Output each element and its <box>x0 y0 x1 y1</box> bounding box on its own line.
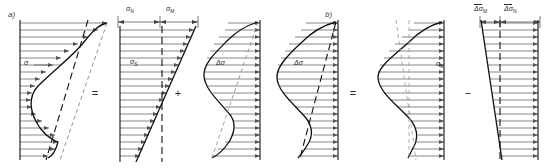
panel-a-equals-operator: = <box>88 87 102 99</box>
arrow-heads <box>533 21 538 158</box>
dim-dsM-sub: M <box>483 8 487 14</box>
residual-stress-curve <box>204 22 258 158</box>
panel-b-linear-correction-diagram <box>478 20 542 160</box>
panel-b-delta-sigma-label: Δσ <box>294 59 303 66</box>
panel-a-plus-operator: + <box>171 87 185 99</box>
linear-stress-line <box>136 26 196 162</box>
figure-canvas: a) <box>0 0 544 168</box>
sigma-S-sub: S <box>134 61 137 67</box>
panel-b-minus-operator: − <box>461 87 475 99</box>
panel-b-equals-operator: = <box>346 87 360 99</box>
residual-stress-curve <box>277 22 336 158</box>
reference-dashed <box>212 22 258 158</box>
arrow-heads <box>333 21 338 158</box>
warping-stress-curve <box>378 22 442 158</box>
panel-label-a: a) <box>8 10 15 19</box>
arrow-field <box>482 23 538 156</box>
panel-a-dim-sigma-N: σN <box>126 5 134 14</box>
panel-a-sigma-label: σ <box>24 59 28 66</box>
linear-reference-dashed <box>300 22 336 158</box>
arrow-heads <box>439 21 444 158</box>
panel-b-sigma-w-label: σw <box>436 60 444 69</box>
panel-label-b: b) <box>325 10 332 19</box>
sigma-w-sub: w <box>440 63 444 69</box>
panel-a-delta-sigma-label: Δσ <box>216 59 225 66</box>
linear-correction-line <box>481 20 502 160</box>
dim-sigma-N-sub: N <box>130 8 134 14</box>
panel-a-residual-stress-diagram <box>192 20 264 160</box>
panel-a-sigma-S-label: σS <box>130 58 138 67</box>
panel-b-residual-stress-diagram <box>270 20 342 160</box>
dim-dsN-symbol: Δσ <box>504 5 513 12</box>
dim-sigma-M-sub: M <box>170 8 174 14</box>
panel-a-dim-sigma-M: σM <box>166 5 174 14</box>
dim-dsN-sub: N <box>513 8 517 14</box>
arrow-field <box>277 23 338 156</box>
linear-reference-dashed <box>396 20 416 160</box>
arrow-heads <box>255 21 260 158</box>
arrow-field <box>378 23 444 156</box>
panel-a-linear-stress-diagram <box>116 26 200 162</box>
panel-b-warping-stress-diagram <box>368 20 448 160</box>
panel-b-dim-delta-sigma-bar-M: ΔσM <box>474 5 487 14</box>
panel-b-dim-delta-sigma-bar-N: ΔσN <box>504 5 517 14</box>
panel-a-sigma-leader <box>34 64 60 66</box>
dim-dsM-symbol: Δσ <box>474 5 483 12</box>
